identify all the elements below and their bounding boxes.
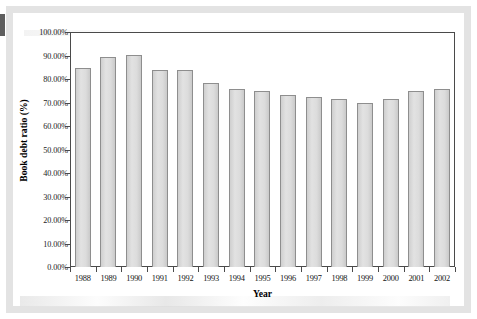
bar-slot: [198, 32, 224, 267]
bar: [434, 89, 450, 267]
y-axis-tick-labels: 0.00%10.00%20.00%30.00%40.00%50.00%60.00…: [6, 0, 68, 319]
y-axis-title: Book debt ratio (%): [18, 66, 29, 216]
figure-root: 0.00%10.00%20.00%30.00%40.00%50.00%60.00…: [0, 0, 477, 319]
x-axis-tick-mark: [404, 267, 405, 272]
x-axis-tick-mark: [378, 267, 379, 272]
bar: [75, 68, 91, 267]
x-axis-tick-mark: [250, 267, 251, 272]
bar: [100, 57, 116, 267]
bar: [306, 97, 322, 267]
x-axis-tick-label: 1990: [121, 274, 147, 283]
x-axis-tick-mark: [429, 267, 430, 272]
x-axis-tick-label: 1999: [352, 274, 378, 283]
bar: [280, 95, 296, 267]
x-axis-tick-labels: 1988198919901991199219931994199519961997…: [70, 274, 455, 283]
x-axis-tick-mark: [96, 267, 97, 272]
y-axis-tick-label: 100.00%: [12, 28, 68, 37]
x-axis-tick-label: 1998: [327, 274, 353, 283]
x-axis-tick-mark: [173, 267, 174, 272]
bar-slot: [147, 32, 173, 267]
x-axis-tick-mark: [327, 267, 328, 272]
x-axis-tick-mark: [455, 267, 456, 272]
x-axis-tick-label: 1996: [275, 274, 301, 283]
y-axis-tick-label: 0.00%: [12, 263, 68, 272]
bar: [152, 70, 168, 267]
x-axis-tick-mark: [275, 267, 276, 272]
bar-slot: [301, 32, 327, 267]
x-axis-tick-mark: [352, 267, 353, 272]
bar-slot: [275, 32, 301, 267]
bar-slot: [327, 32, 353, 267]
bar: [357, 103, 373, 267]
bar-slot: [96, 32, 122, 267]
bar: [126, 55, 142, 267]
bar: [383, 99, 399, 267]
bar: [331, 99, 347, 267]
x-axis-tick-mark: [121, 267, 122, 272]
x-axis-tick-label: 1994: [224, 274, 250, 283]
bar-slot: [404, 32, 430, 267]
bar-slot: [250, 32, 276, 267]
bar: [254, 91, 270, 267]
x-axis-tick-label: 2002: [429, 274, 455, 283]
x-axis-tick-label: 1989: [96, 274, 122, 283]
bar-slot: [224, 32, 250, 267]
x-axis-tick-label: 1988: [70, 274, 96, 283]
x-axis-tick-label: 2000: [378, 274, 404, 283]
bar-slot: [429, 32, 455, 267]
x-axis-title: Year: [70, 288, 455, 299]
bar-slot: [121, 32, 147, 267]
y-axis-tick-label: 10.00%: [12, 239, 68, 248]
x-axis-tick-label: 1991: [147, 274, 173, 283]
x-axis-tick-mark: [70, 267, 71, 272]
bar-slot: [352, 32, 378, 267]
x-axis-tick-mark: [198, 267, 199, 272]
x-axis-tick-label: 1995: [250, 274, 276, 283]
bar: [177, 70, 193, 267]
x-axis-tick-mark: [301, 267, 302, 272]
x-axis-tick-mark: [224, 267, 225, 272]
bars-layer: [70, 32, 455, 267]
bar-chart: 0.00%10.00%20.00%30.00%40.00%50.00%60.00…: [0, 0, 477, 319]
x-axis-tick-label: 2001: [404, 274, 430, 283]
bar: [203, 83, 219, 267]
y-axis-tick-label: 90.00%: [12, 51, 68, 60]
x-axis-tick-label: 1993: [198, 274, 224, 283]
bar-slot: [173, 32, 199, 267]
bar-slot: [70, 32, 96, 267]
bar: [408, 91, 424, 267]
y-axis-tick-label: 20.00%: [12, 216, 68, 225]
bar-slot: [378, 32, 404, 267]
x-axis-tick-mark: [147, 267, 148, 272]
x-axis-tick-label: 1997: [301, 274, 327, 283]
x-axis-tick-label: 1992: [173, 274, 199, 283]
bar: [229, 89, 245, 267]
